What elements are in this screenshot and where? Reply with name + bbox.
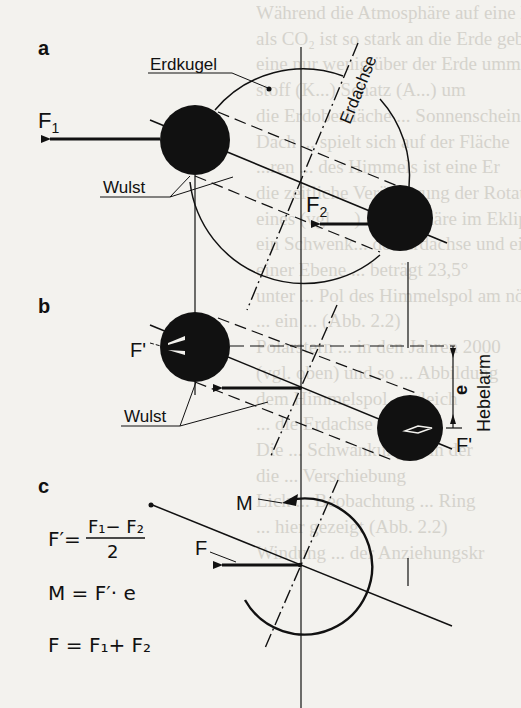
label-lever-arm: Hebelarm (474, 354, 494, 432)
dashed-parallel-lower-b (195, 382, 392, 460)
lever-arrow-bottom (450, 414, 456, 424)
earth-center-dot (267, 87, 272, 92)
center-point-c (298, 563, 302, 567)
bulge-mass-right-b (377, 395, 443, 461)
moment-arrowhead (282, 494, 298, 506)
force-label-f2: F2 (306, 192, 327, 220)
earth-circle-arc-bottom (190, 182, 380, 284)
label-f-prime-left: F' (130, 339, 146, 361)
label-f-prime-right: F' (456, 434, 472, 456)
dashed-parallel-lower (195, 176, 380, 252)
bulge-mass-left-b (160, 312, 230, 382)
earth-circle-arc-right (380, 99, 410, 187)
panel-label-a: a (38, 37, 50, 59)
equation-f-prime-numerator: F₁− F₂ (88, 516, 144, 537)
equation-total-force: F = F₁+ F₂ (48, 633, 151, 657)
moment-leader (258, 499, 282, 503)
panel-label-b: b (38, 295, 50, 317)
label-bulge-b: Wulst (124, 407, 166, 426)
force-c-leader (210, 552, 236, 562)
panel-label-c: c (38, 475, 49, 497)
label-earth-axis: Erdachse (336, 53, 381, 127)
label-lever-e: e (451, 385, 471, 395)
earth-axis-line (247, 43, 358, 310)
panel-b: b F' F' e Hebelarm Wulst (38, 295, 494, 461)
label-earth-leader (232, 73, 268, 88)
earth-circle-arc-top (215, 69, 343, 110)
moment-arc (245, 499, 372, 635)
earth-axis-line-b (270, 305, 337, 458)
equation-f-prime-lhs: F′= (48, 527, 81, 551)
label-moment: M (236, 492, 253, 514)
equation-moment: M = F′· e (48, 581, 136, 605)
force-label-f1: F1 (38, 108, 59, 136)
panel-a: a F1 F2 Erdkugel Erdachse (38, 37, 447, 708)
bulge-mass-right (367, 185, 433, 251)
dashed-parallel-upper (218, 112, 400, 187)
center-point-b (298, 386, 302, 390)
dashed-parallel-upper-b (218, 318, 416, 393)
bulge-line-c-endpoint (149, 503, 154, 508)
equation-f-prime-denominator: 2 (107, 541, 118, 562)
precession-diagram: a F1 F2 Erdkugel Erdachse (0, 0, 521, 708)
bulge-mass-left (160, 105, 230, 175)
label-bulge-a: Wulst (103, 178, 145, 197)
panel-c: c M F F′= F₁− F₂ 2 M = F′· e F = F₁+ F₂ (38, 475, 452, 657)
label-force-c: F (195, 537, 207, 559)
lever-arrow-top (450, 348, 456, 358)
label-earth: Erdkugel (150, 55, 217, 74)
